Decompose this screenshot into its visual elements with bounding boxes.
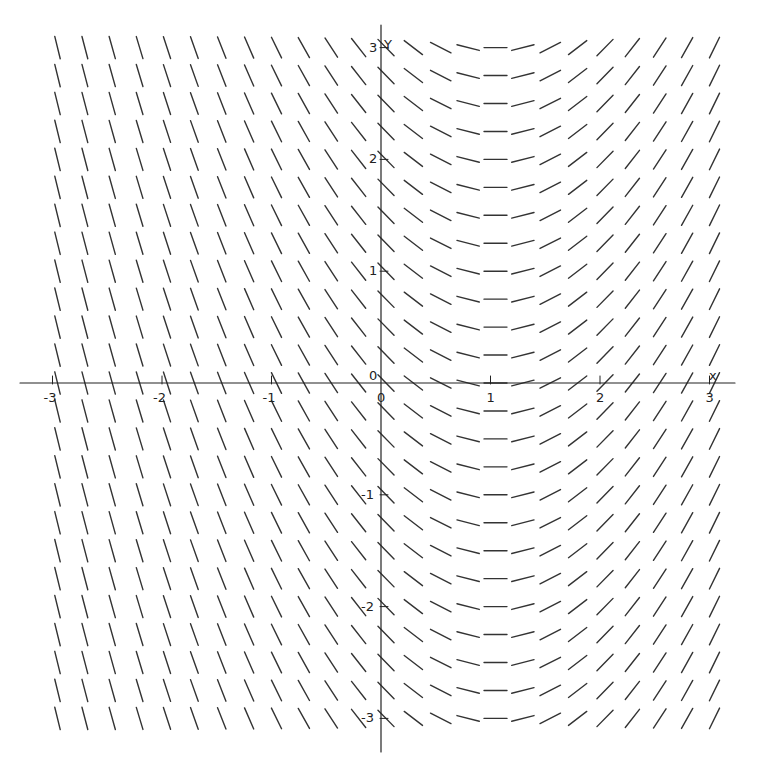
slope-segment — [568, 656, 586, 670]
slope-segment — [709, 568, 719, 589]
slope-segment — [55, 484, 60, 506]
slope-segment — [271, 177, 281, 198]
slope-segment — [352, 514, 366, 532]
slope-segment — [82, 651, 88, 673]
slope-segment — [109, 148, 115, 170]
slope-segment — [218, 344, 226, 365]
slope-segment — [82, 484, 88, 506]
slope-segment — [378, 570, 394, 586]
slope-segment — [109, 232, 115, 254]
slope-segment — [136, 651, 143, 673]
slope-segment — [352, 262, 366, 280]
slope-segment — [568, 41, 586, 55]
slope-segment — [271, 652, 281, 673]
slope-segment — [597, 347, 613, 363]
slope-segment — [245, 121, 254, 142]
slope-segment — [109, 484, 115, 506]
slope-segment — [298, 569, 309, 589]
slope-segment — [245, 624, 254, 645]
slope-segment — [55, 428, 60, 450]
slope-segment — [325, 457, 338, 476]
slope-segment — [682, 345, 693, 365]
slope-segment — [625, 262, 639, 280]
slope-segment — [512, 492, 534, 498]
slope-segment — [653, 94, 666, 113]
slope-segment — [512, 129, 534, 135]
slope-segment — [378, 123, 394, 139]
slope-segment — [218, 568, 226, 589]
slope-segment — [136, 120, 143, 142]
slope-segment — [682, 261, 693, 281]
slope-segment — [55, 623, 60, 645]
slope-segment — [82, 232, 88, 254]
slope-segment — [540, 713, 560, 723]
slope-segment — [568, 152, 586, 166]
slope-segment — [457, 268, 479, 274]
slope-segment — [709, 205, 719, 226]
slope-segment — [625, 598, 639, 616]
slope-segment — [163, 232, 170, 254]
slope-segment — [352, 94, 366, 112]
slope-segment — [136, 568, 143, 590]
slope-segment — [512, 157, 534, 163]
slope-segment — [653, 457, 666, 476]
slope-segment — [457, 604, 479, 610]
slope-segment — [625, 430, 639, 448]
slope-segment — [352, 150, 366, 168]
slope-segment — [218, 288, 226, 309]
slope-segment — [625, 150, 639, 168]
slope-segment — [55, 316, 60, 338]
slope-segment — [597, 95, 613, 111]
slope-segment — [245, 540, 254, 561]
slope-segment — [540, 545, 560, 555]
slope-segment — [325, 401, 338, 420]
slope-segment — [271, 261, 281, 282]
slope-segment — [709, 65, 719, 86]
slope-segment — [82, 400, 88, 422]
slope-segment — [298, 121, 309, 141]
slope-segment — [431, 629, 451, 639]
slope-segment — [245, 428, 254, 449]
slope-segment — [682, 541, 693, 561]
slope-segment — [682, 177, 693, 197]
slope-segment — [457, 688, 479, 694]
slope-segment — [540, 601, 560, 611]
slope-segment — [55, 176, 60, 198]
slope-segment — [404, 711, 422, 725]
slope-segment — [136, 707, 143, 729]
slope-segment — [109, 37, 115, 59]
slope-segment — [136, 176, 143, 198]
slope-segment — [709, 317, 719, 338]
slope-segment — [325, 681, 338, 700]
slope-segment — [271, 37, 281, 58]
slope-segment — [82, 260, 88, 282]
slope-segment — [625, 570, 639, 588]
slope-segment — [191, 540, 199, 562]
slope-segment — [568, 292, 586, 306]
slope-segment — [298, 541, 309, 561]
slope-segment — [682, 66, 693, 86]
slope-segment — [218, 316, 226, 337]
slope-segment — [653, 429, 666, 448]
slope-segment — [109, 204, 115, 226]
slope-segment — [568, 69, 586, 83]
slope-segment — [136, 456, 143, 478]
slope-segment — [136, 92, 143, 114]
slope-segment — [298, 708, 309, 728]
slope-segment — [163, 204, 170, 226]
slope-segment — [352, 430, 366, 448]
slope-segment — [709, 457, 719, 478]
slope-segment — [352, 542, 366, 560]
slope-segment — [218, 233, 226, 254]
slope-segment — [136, 679, 143, 701]
slope-segment — [245, 93, 254, 114]
slope-segment — [163, 260, 170, 282]
slope-segment — [457, 296, 479, 302]
slope-segment — [653, 38, 666, 57]
slope-segment — [540, 238, 560, 248]
slope-segment — [245, 205, 254, 226]
slope-segment — [298, 429, 309, 449]
slope-segment — [378, 431, 394, 447]
slope-segment — [709, 680, 719, 701]
slope-segment — [136, 400, 143, 422]
